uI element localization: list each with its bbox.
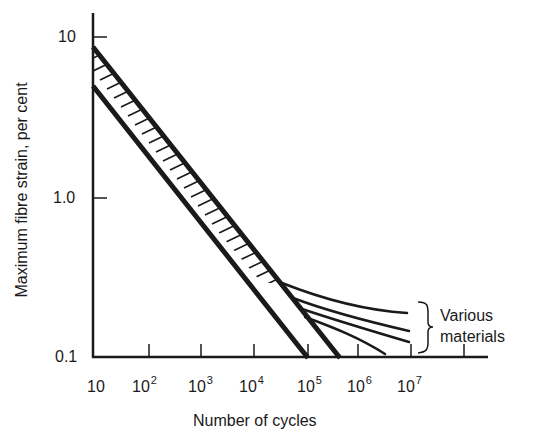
band-lower-line (93, 86, 308, 358)
x-tick-base: 10 (347, 378, 365, 395)
various-materials-annotation: Various materials (440, 305, 505, 347)
material-curve-2 (293, 298, 409, 331)
x-tick-exp: 3 (207, 374, 213, 386)
x-tick-label-1e6: 106 (347, 379, 372, 395)
x-tick-base: 10 (132, 378, 150, 395)
x-tick-base: 10 (239, 378, 257, 395)
material-curves (282, 283, 409, 354)
x-tick-base: 10 (188, 378, 206, 395)
annotation-line-2: materials (440, 326, 505, 347)
x-tick-label-1e7: 107 (397, 379, 422, 395)
brace-icon (418, 302, 433, 353)
x-tick-base: 10 (397, 378, 415, 395)
band-upper-line (93, 47, 340, 358)
annotation-line-1: Various (440, 305, 505, 326)
y-tick-label-1: 1.0 (53, 190, 75, 206)
x-tick-base: 10 (87, 378, 105, 395)
x-tick-exp: 2 (151, 374, 157, 386)
chart-plot-area (0, 0, 534, 445)
x-tick-exp: 4 (258, 374, 264, 386)
x-axis-title: Number of cycles (193, 412, 317, 430)
x-tick-label-1e2: 102 (132, 379, 157, 395)
scatter-band-lines (93, 47, 340, 358)
axes (92, 13, 488, 358)
x-tick-label-1e4: 104 (239, 379, 264, 395)
x-tick-exp: 7 (416, 374, 422, 386)
y-tick-label-01: 0.1 (55, 349, 77, 365)
x-tick-label-1e3: 103 (188, 379, 213, 395)
x-tick-exp: 5 (316, 374, 322, 386)
x-tick-label-1e5: 105 (297, 379, 322, 395)
y-axis-title: Maximum fibre strain, per cent (13, 82, 31, 297)
x-tick-exp: 6 (366, 374, 372, 386)
y-tick-label-10: 10 (58, 29, 76, 45)
x-tick-label-10: 10 (87, 379, 105, 395)
x-tick-base: 10 (297, 378, 315, 395)
